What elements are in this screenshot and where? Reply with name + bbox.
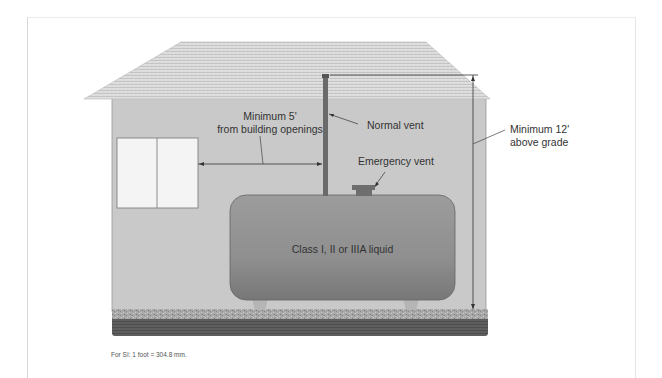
label-emergency-vent: Emergency vent bbox=[358, 155, 434, 167]
window bbox=[117, 138, 198, 208]
label-from-openings: from building openings bbox=[200, 123, 340, 135]
normal-vent-pipe bbox=[323, 76, 328, 196]
roof bbox=[84, 42, 490, 99]
label-above-grade: above grade bbox=[510, 136, 568, 148]
si-footnote: For SI: 1 foot = 304.8 mm. bbox=[111, 351, 187, 358]
label-tank-contents: Class I, II or IIIA liquid bbox=[230, 243, 455, 255]
label-normal-vent: Normal vent bbox=[367, 119, 424, 131]
label-min-12: Minimum 12' bbox=[510, 123, 569, 135]
gravel-layer bbox=[112, 309, 488, 319]
diagram-canvas bbox=[0, 0, 662, 378]
ground-layer bbox=[112, 319, 488, 336]
normal-vent-top bbox=[322, 74, 329, 78]
label-min-5: Minimum 5' bbox=[200, 110, 340, 122]
